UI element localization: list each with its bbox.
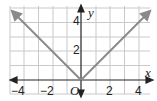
- x-tick-2: 2: [106, 85, 113, 97]
- y-tick-4: 4: [73, 15, 80, 27]
- y-tick-2: 2: [73, 44, 80, 56]
- graph: y x 4 2 −4 −2 O 2 4: [0, 0, 157, 101]
- origin-label: O: [70, 84, 79, 97]
- y-axis-label: y: [88, 6, 94, 19]
- x-tick-minus-2: −2: [40, 85, 54, 97]
- x-tick-minus-4: −4: [11, 85, 25, 97]
- x-axis-label: x: [145, 66, 151, 79]
- grid: [10, 6, 150, 94]
- x-tick-4: 4: [135, 85, 142, 97]
